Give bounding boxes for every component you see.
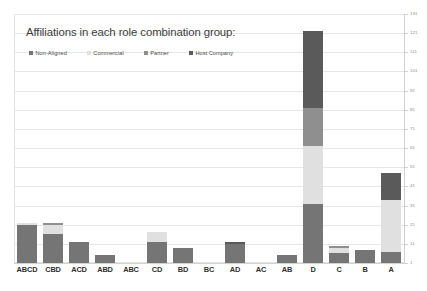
- y-axis: 1112131415161718191101111121131: [404, 14, 427, 263]
- y-axis-tick: [404, 244, 408, 245]
- x-axis-label: A: [388, 265, 393, 274]
- bar-segment[interactable]: [381, 252, 401, 263]
- y-axis-label: 91: [410, 88, 415, 92]
- bar-segment[interactable]: [147, 232, 167, 242]
- bar-segment[interactable]: [147, 242, 167, 263]
- x-axis-label: D: [310, 265, 315, 274]
- chart-legend: Non-AlignedCommercialPartnerHost Company: [29, 50, 233, 56]
- x-axis-labels: ABCDCBDACDABDABCCDBDBCADACABDCBA: [14, 265, 404, 279]
- stacked-bar-chart: 1112131415161718191101111121131 Affiliat…: [0, 0, 427, 291]
- x-axis-label: AC: [256, 265, 266, 274]
- bar-segment[interactable]: [355, 250, 375, 263]
- y-axis-label: 121: [410, 31, 418, 35]
- x-axis-label: ABC: [123, 265, 139, 274]
- x-axis-label: AD: [230, 265, 240, 274]
- x-axis-label: C: [336, 265, 341, 274]
- y-axis-label: 21: [410, 222, 415, 226]
- legend-item-label: Partner: [150, 50, 169, 56]
- y-axis-tick: [404, 71, 408, 72]
- bar-segment[interactable]: [43, 225, 63, 235]
- bar-segment[interactable]: [95, 255, 115, 263]
- y-axis-tick: [404, 91, 408, 92]
- bar-group[interactable]: [173, 248, 193, 263]
- bar-segment[interactable]: [225, 244, 245, 263]
- x-axis-label: CBD: [45, 265, 61, 274]
- bar-group[interactable]: [303, 31, 323, 263]
- bar-group[interactable]: [381, 173, 401, 263]
- legend-item-label: Non-Aligned: [36, 50, 67, 56]
- bar-group[interactable]: [69, 242, 89, 263]
- x-axis-label: ABD: [97, 265, 113, 274]
- bar-group[interactable]: [329, 246, 349, 263]
- y-axis-tick: [404, 110, 408, 111]
- gridline: [14, 263, 404, 264]
- y-axis-label: 31: [410, 203, 415, 207]
- y-axis-tick: [404, 225, 408, 226]
- y-axis-label: 81: [410, 108, 415, 112]
- y-axis-label: 41: [410, 184, 415, 188]
- y-axis-label: 71: [410, 127, 415, 131]
- legend-swatch-icon: [29, 51, 33, 55]
- legend-swatch-icon: [144, 51, 148, 55]
- bar-group[interactable]: [43, 223, 63, 263]
- legend-swatch-icon: [87, 51, 91, 55]
- y-axis-tick: [404, 263, 408, 264]
- bar-group[interactable]: [17, 223, 37, 263]
- x-axis-label: AB: [282, 265, 292, 274]
- y-axis-label: 111: [410, 50, 417, 54]
- y-axis-label: 61: [410, 146, 415, 150]
- bar-segment[interactable]: [303, 108, 323, 146]
- bar-segment[interactable]: [17, 225, 37, 263]
- y-axis-label: 1: [410, 261, 413, 265]
- y-axis-tick: [404, 14, 408, 15]
- legend-item-label: Host Company: [195, 50, 233, 56]
- y-axis-label: 101: [410, 69, 418, 73]
- bar-segment[interactable]: [277, 255, 297, 263]
- y-axis-label: 131: [410, 12, 418, 16]
- y-axis-tick: [404, 186, 408, 187]
- x-axis-label: CD: [152, 265, 162, 274]
- x-axis-label: ABCD: [17, 265, 38, 274]
- legend-item[interactable]: Partner: [144, 50, 169, 56]
- bar-group[interactable]: [225, 242, 245, 263]
- legend-swatch-icon: [189, 51, 193, 55]
- bar-segment[interactable]: [381, 173, 401, 200]
- bar-segment[interactable]: [303, 31, 323, 108]
- y-axis-label: 51: [410, 165, 415, 169]
- legend-item[interactable]: Commercial: [87, 50, 124, 56]
- y-axis-tick: [404, 206, 408, 207]
- x-axis-label: BC: [204, 265, 214, 274]
- y-axis-label: 11: [410, 242, 415, 246]
- y-axis-tick: [404, 148, 408, 149]
- y-axis-tick: [404, 167, 408, 168]
- y-axis-tick: [404, 129, 408, 130]
- bar-segment[interactable]: [303, 204, 323, 263]
- legend-item[interactable]: Host Company: [189, 50, 233, 56]
- bar-segment[interactable]: [329, 253, 349, 263]
- chart-title: Affiliations in each role combination gr…: [26, 26, 235, 39]
- y-axis-tick: [404, 33, 408, 34]
- bar-segment[interactable]: [381, 200, 401, 252]
- bar-group[interactable]: [95, 255, 115, 263]
- legend-item-label: Commercial: [93, 50, 123, 56]
- bar-segment[interactable]: [69, 242, 89, 263]
- bar-segment[interactable]: [173, 248, 193, 263]
- x-axis-label: ACD: [71, 265, 87, 274]
- bar-segment[interactable]: [303, 146, 323, 203]
- x-axis-label: B: [362, 265, 367, 274]
- bar-group[interactable]: [147, 232, 167, 263]
- bar-group[interactable]: [355, 250, 375, 263]
- bar-segment[interactable]: [43, 234, 63, 263]
- x-axis-label: BD: [178, 265, 188, 274]
- legend-item[interactable]: Non-Aligned: [29, 50, 67, 56]
- bar-group[interactable]: [277, 255, 297, 263]
- y-axis-tick: [404, 52, 408, 53]
